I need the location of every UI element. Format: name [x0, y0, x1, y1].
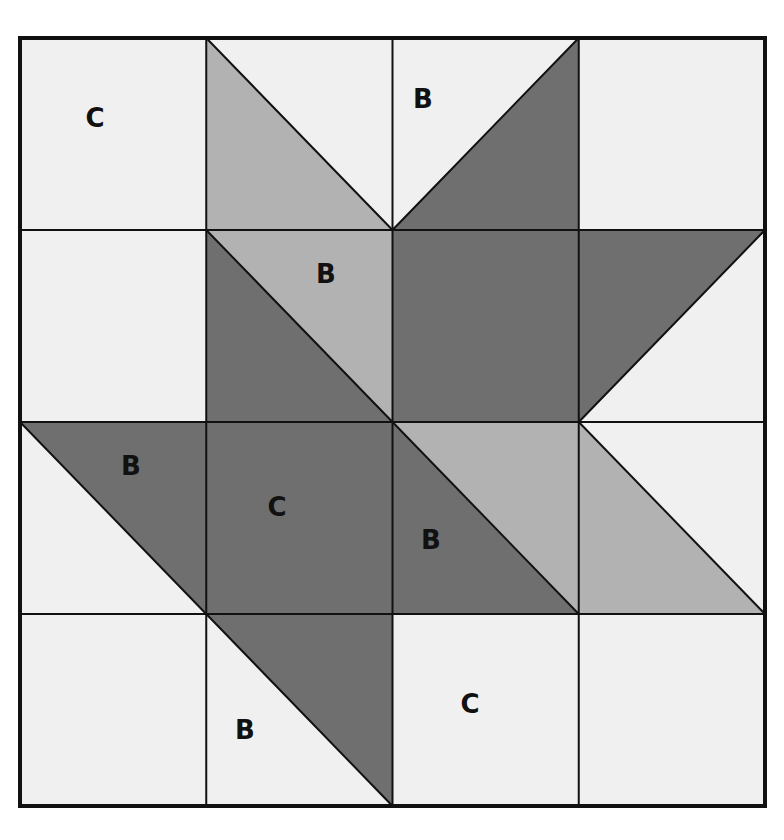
square-patch [20, 38, 206, 230]
quilt-cell-r2-c0 [20, 422, 206, 614]
square-patch [393, 614, 579, 806]
patch-label-b: B [316, 259, 336, 289]
square-patch [20, 614, 206, 806]
patch-label-b: B [421, 525, 441, 555]
quilt-cell-r2-c1 [206, 422, 392, 614]
quilt-cell-r0-c0 [20, 38, 206, 230]
patch-label-b: B [121, 451, 141, 481]
quilt-cell-r2-c2 [393, 422, 579, 614]
quilt-cell-r0-c2 [393, 38, 579, 230]
quilt-cell-r3-c0 [20, 614, 206, 806]
quilt-cell-r0-c1 [206, 38, 392, 230]
square-patch [393, 230, 579, 422]
quilt-cell-r3-c3 [579, 614, 765, 806]
quilt-cell-r0-c3 [579, 38, 765, 230]
quilt-cell-r3-c2 [393, 614, 579, 806]
quilt-cell-r1-c2 [393, 230, 579, 422]
quilt-block-diagram: CBBBCBBC [0, 0, 784, 840]
quilt-cell-r3-c1 [206, 614, 392, 806]
patch-label-c: C [267, 492, 286, 522]
quilt-cell-r2-c3 [579, 422, 765, 614]
quilt-cell-r1-c3 [579, 230, 765, 422]
patch-label-c: C [460, 689, 479, 719]
quilt-cell-r1-c0 [20, 230, 206, 422]
patch-label-c: C [85, 103, 104, 133]
patch-label-b: B [235, 715, 255, 745]
quilt-cell-r1-c1 [206, 230, 392, 422]
square-patch [579, 38, 765, 230]
square-patch [20, 230, 206, 422]
patch-label-b: B [413, 84, 433, 114]
square-patch [579, 614, 765, 806]
square-patch [206, 422, 392, 614]
